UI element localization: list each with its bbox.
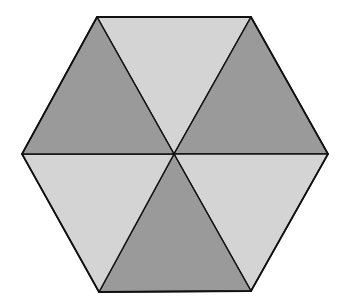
hexagon-diagram: [0, 0, 349, 307]
